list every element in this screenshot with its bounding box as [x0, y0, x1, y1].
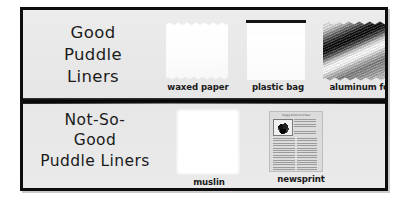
newsprint-swatch: Froggy Pond Full of Rain: [269, 111, 323, 172]
sample-aluminum-foil: aluminum foil: [321, 21, 385, 98]
newsprint-photo: [273, 119, 293, 136]
title-line: Good: [29, 22, 157, 44]
section-divider: [23, 98, 385, 103]
aluminum-foil-swatch: [323, 21, 385, 81]
poster-inner: Good Puddle Liners waxed paper plastic b…: [23, 10, 385, 188]
plastic-bag-striations: [247, 23, 305, 30]
sample-muslin: muslin: [169, 110, 249, 188]
title-line: Puddle Liners: [25, 151, 165, 171]
title-line: Liners: [29, 66, 157, 88]
newsprint-text-column: [294, 119, 316, 136]
title-line: Puddle: [29, 44, 157, 66]
newsprint-text-column: [273, 138, 295, 171]
sample-label: plastic bag: [252, 82, 304, 92]
sample-label: muslin: [193, 177, 225, 187]
title-line: Good: [25, 130, 165, 150]
sample-plastic-bag: plastic bag: [241, 20, 315, 98]
newsprint-headline: Froggy Pond Full of Rain: [273, 114, 319, 118]
sample-label: newsprint: [277, 174, 325, 184]
muslin-swatch: [177, 110, 239, 174]
puddle-liners-poster: Good Puddle Liners waxed paper plastic b…: [0, 0, 401, 202]
newsprint-text-column: [297, 138, 317, 171]
sample-label: waxed paper: [167, 82, 228, 92]
frog-illustration-icon: [277, 123, 290, 134]
sample-newsprint: Froggy Pond Full of Rain newsprint: [263, 109, 339, 188]
poster-frame: Good Puddle Liners waxed paper plastic b…: [20, 7, 388, 191]
plastic-bag-swatch: [247, 20, 305, 80]
sample-label: aluminum foil: [329, 82, 385, 92]
good-puddle-liners-title: Good Puddle Liners: [29, 22, 157, 87]
not-so-good-puddle-liners-title: Not-So- Good Puddle Liners: [25, 110, 165, 171]
foil-streaks: [323, 21, 385, 81]
sample-waxed-paper: waxed paper: [159, 22, 237, 98]
newsprint-body: [273, 119, 319, 171]
waxed-paper-swatch: [166, 22, 228, 80]
title-line: Not-So-: [25, 110, 165, 130]
